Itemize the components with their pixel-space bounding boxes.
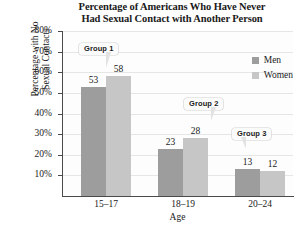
bar-women-15-17 — [106, 76, 131, 196]
bar-men-15-17 — [81, 87, 106, 196]
chart-title-line-2: Had Sexual Contact with Another Person — [46, 13, 298, 25]
legend-swatch-women-icon — [252, 72, 259, 79]
x-tick-label-20-24: 20–24 — [235, 200, 285, 210]
y-tick-label-10: 10% — [18, 170, 52, 180]
callout-group-3: Group 3 — [232, 128, 271, 140]
callout-group-2-tail-icon — [211, 107, 216, 121]
y-tick-label-70: 70% — [18, 47, 52, 57]
callout-group-2: Group 2 — [184, 98, 223, 110]
x-axis-title: Age — [62, 213, 293, 223]
y-tick-label-20: 20% — [18, 150, 52, 160]
y-tick-label-60: 60% — [18, 67, 52, 77]
y-tick-label-50: 50% — [18, 88, 52, 98]
y-tick-label-40: 40% — [18, 109, 52, 119]
legend-label-women: Women — [264, 71, 293, 81]
bar-value-men-15-17: 53 — [81, 76, 106, 86]
chart-legend: Men Women — [252, 56, 293, 85]
bar-men-18-19 — [158, 149, 183, 196]
legend-swatch-men-icon — [252, 57, 259, 64]
callout-group-1-tail-icon — [106, 52, 111, 68]
x-axis-line — [62, 196, 294, 197]
y-axis-line — [62, 31, 63, 197]
bar-value-men-18-19: 23 — [158, 138, 183, 148]
bar-women-18-19 — [183, 138, 208, 196]
callout-group-3-tail-icon — [241, 137, 246, 149]
bar-women-20-24 — [260, 171, 285, 196]
chart-title: Percentage of Americans Who Have Never H… — [46, 1, 298, 24]
bar-value-men-20-24: 13 — [235, 158, 260, 168]
chart-title-line-1: Percentage of Americans Who Have Never — [46, 1, 298, 13]
x-tick-label-15-17: 15–17 — [81, 200, 131, 210]
gridline-80 — [62, 31, 293, 32]
callout-group-1-box: Group 1 — [79, 43, 118, 55]
bar-men-20-24 — [235, 169, 260, 196]
y-axis-title: Percentage with No Sexual Contacts — [28, 0, 54, 119]
y-tick-label-80: 80% — [18, 26, 52, 36]
bar-value-women-20-24: 12 — [260, 160, 285, 170]
bar-chart: Percentage of Americans Who Have Never H… — [0, 0, 301, 230]
callout-group-1: Group 1 — [79, 43, 118, 55]
callout-group-3-box: Group 3 — [232, 128, 271, 140]
legend-label-men: Men — [264, 56, 281, 66]
bar-value-women-18-19: 28 — [183, 127, 208, 137]
x-tick-label-18-19: 18–19 — [158, 200, 208, 210]
callout-group-2-box: Group 2 — [184, 98, 223, 110]
legend-item-men: Men — [252, 56, 293, 66]
legend-item-women: Women — [252, 71, 293, 81]
y-tick-label-30: 30% — [18, 129, 52, 139]
